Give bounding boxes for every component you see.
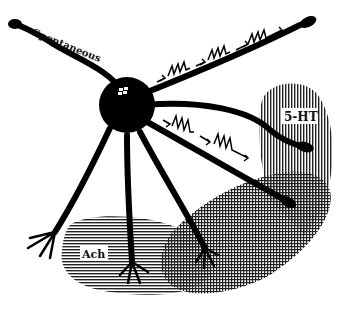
upper-right-dendrite — [140, 25, 300, 95]
nucleus-icon — [118, 87, 128, 95]
lower-left-dendrite — [55, 128, 110, 232]
serotonin-label: 5-HT — [281, 108, 318, 124]
neuron-diagram: 5-HT Ach — [0, 0, 362, 312]
spike-train-upper — [157, 27, 282, 82]
overlap-region — [161, 172, 331, 294]
soma — [99, 77, 155, 133]
acetylcholine-label: Ach — [80, 246, 108, 261]
svg-text:5-HT: 5-HT — [284, 110, 318, 124]
spontaneous-label: Spontaneous — [31, 27, 103, 64]
svg-text:Ach: Ach — [81, 248, 105, 261]
